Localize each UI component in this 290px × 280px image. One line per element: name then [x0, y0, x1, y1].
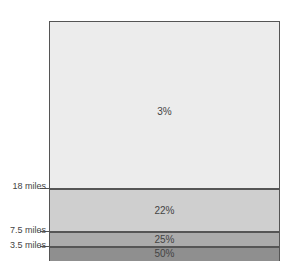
tick-label-7-5-miles: 7.5 miles [0, 225, 49, 235]
band-label: 25% [50, 234, 279, 245]
band-label: 3% [50, 106, 279, 117]
band-label: 22% [50, 205, 279, 216]
band-over-18-miles: 3% [50, 22, 279, 189]
band-0-to-3-5-miles: 50% [50, 247, 279, 261]
tick-line-18 [40, 188, 280, 189]
tick-label-18-miles: 18 miles [0, 181, 49, 191]
tick-line-7-5 [40, 231, 280, 232]
band-label: 50% [50, 248, 279, 259]
stacked-distance-chart: 3% 22% 25% 50% [49, 21, 280, 261]
band-3-5-to-7-5-miles: 25% [50, 232, 279, 247]
tick-line-3-5 [40, 246, 280, 247]
tick-label-3-5-miles: 3.5 miles [0, 240, 49, 250]
band-7-5-to-18-miles: 22% [50, 189, 279, 232]
